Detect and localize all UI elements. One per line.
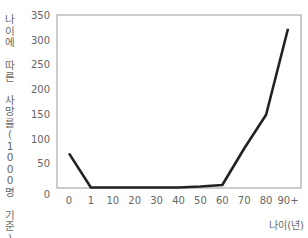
plot-frame [57,15,301,188]
x-tick-label: 20 [128,195,141,206]
y-tick-label: 300 [31,35,50,46]
y-tick-label: 150 [31,109,50,120]
x-tick-label: 80 [260,195,273,206]
y-tick-label: 100 [31,134,50,145]
x-tick-label: 70 [238,195,251,206]
x-tick-label: 60 [216,195,229,206]
y-tick-label: 350 [31,10,50,21]
x-tick-label: 10 [106,195,119,206]
mortality-line [69,29,288,188]
x-tick-label: 1 [88,195,94,206]
x-tick-label: 30 [150,195,163,206]
x-axis-ticks: 01102030405060708090+ [66,195,299,206]
x-tick-label: 0 [66,195,72,206]
x-tick-label: 40 [172,195,185,206]
y-tick-label: 200 [31,84,50,95]
y-axis-ticks: 050100150200250300350 [31,10,50,200]
y-tick-label: 250 [31,59,50,70]
x-tick-label: 50 [194,195,207,206]
x-tick-label: 90+ [277,195,298,206]
y-tick-label: 0 [44,189,50,200]
y-tick-label: 50 [37,158,50,169]
x-axis-title: 나이(년) [269,217,304,232]
line-chart: 050100150200250300350 011020304050607080… [0,0,308,238]
